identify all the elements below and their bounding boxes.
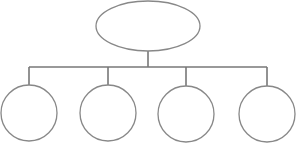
connectors: [29, 51, 267, 86]
tree-diagram: [0, 0, 299, 147]
nodes: [1, 1, 295, 142]
child-node-3: [158, 86, 214, 142]
child-node-4: [239, 86, 295, 142]
child-node-1: [1, 85, 57, 141]
root-node: [96, 1, 200, 51]
child-node-2: [80, 85, 136, 141]
